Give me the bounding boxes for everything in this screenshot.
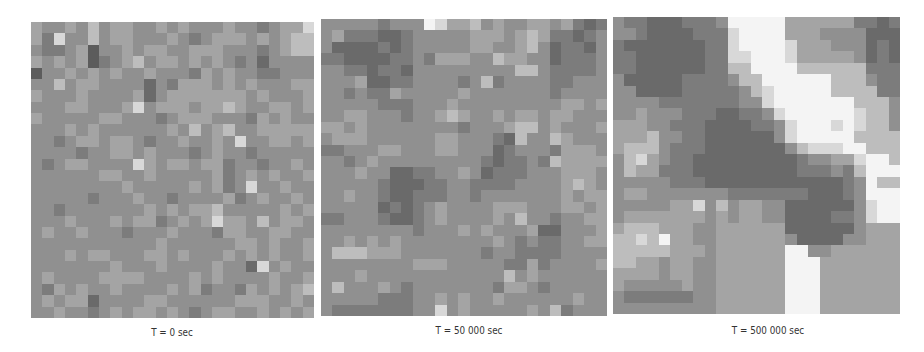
grid-cell <box>670 28 681 39</box>
grid-cell <box>99 238 110 249</box>
grid-cell <box>515 293 526 304</box>
grid-cell <box>122 68 133 79</box>
grid-cell <box>716 108 727 119</box>
grid-cell <box>291 238 302 249</box>
grid-cell <box>659 245 670 256</box>
grid-cell <box>65 68 76 79</box>
grid-cell <box>303 159 314 170</box>
grid-cell <box>584 305 595 316</box>
grid-cell <box>854 245 865 256</box>
grid-cell <box>843 143 854 154</box>
grid-cell <box>573 305 584 316</box>
grid-cell <box>705 177 716 188</box>
grid-cell <box>561 30 572 41</box>
grid-cell <box>178 250 189 261</box>
grid-cell <box>647 211 658 222</box>
grid-cell <box>167 68 178 79</box>
grid-cell <box>613 86 624 97</box>
grid-cell <box>820 51 831 62</box>
grid-cell <box>435 190 446 201</box>
grid-cell <box>613 97 624 108</box>
grid-cell <box>820 234 831 245</box>
grid-cell <box>54 295 65 306</box>
grid-cell <box>843 40 854 51</box>
grid-cell <box>201 193 212 204</box>
grid-cell <box>435 65 446 76</box>
grid-cell <box>332 53 343 64</box>
grid-cell <box>269 238 280 249</box>
grid-cell <box>235 124 246 135</box>
grid-cell <box>889 177 900 188</box>
grid-cell <box>246 45 257 56</box>
grid-cell <box>201 227 212 238</box>
grid-cell <box>178 181 189 192</box>
grid-cell <box>246 22 257 33</box>
grid-cell <box>866 120 877 131</box>
grid-cell <box>584 110 595 121</box>
grid-cell <box>877 200 888 211</box>
grid-cell <box>797 211 808 222</box>
grid-cell <box>390 99 401 110</box>
grid-cell <box>550 247 561 258</box>
grid-cell <box>378 236 389 247</box>
grid-cell <box>223 284 234 295</box>
grid-cell <box>201 170 212 181</box>
grid-cell <box>877 154 888 165</box>
grid-cell <box>65 227 76 238</box>
grid-cell <box>527 190 538 201</box>
grid-cell <box>550 145 561 156</box>
grid-cell <box>481 133 492 144</box>
grid-cell <box>367 65 378 76</box>
grid-cell <box>877 17 888 28</box>
grid-cell <box>739 97 750 108</box>
grid-cell <box>877 211 888 222</box>
grid-cell <box>257 45 268 56</box>
grid-cell <box>280 250 291 261</box>
grid-cell <box>291 284 302 295</box>
grid-cell <box>223 56 234 67</box>
grid-cell <box>401 202 412 213</box>
grid-cell <box>739 268 750 279</box>
grid-cell <box>332 19 343 30</box>
grid-cell <box>636 280 647 291</box>
grid-cell <box>774 280 785 291</box>
grid-cell <box>201 181 212 192</box>
grid-cell <box>774 177 785 188</box>
grid-cell <box>31 159 42 170</box>
grid-cell <box>647 280 658 291</box>
grid-cell <box>843 223 854 234</box>
grid-cell <box>693 234 704 245</box>
grid-cell <box>424 99 435 110</box>
grid-cell <box>584 236 595 247</box>
grid-cell <box>246 124 257 135</box>
grid-cell <box>435 156 446 167</box>
grid-cell <box>223 22 234 33</box>
grid-cell <box>550 99 561 110</box>
grid-cell <box>212 124 223 135</box>
grid-cell <box>716 200 727 211</box>
grid-cell <box>693 268 704 279</box>
grid-cell <box>866 245 877 256</box>
grid-cell <box>458 42 469 53</box>
grid-cell <box>133 147 144 158</box>
grid-cell <box>550 225 561 236</box>
grid-cell <box>291 250 302 261</box>
grid-cell <box>538 99 549 110</box>
grid-cell <box>561 225 572 236</box>
grid-cell <box>110 102 121 113</box>
grid-cell <box>889 257 900 268</box>
grid-cell <box>223 238 234 249</box>
grid-cell <box>624 63 635 74</box>
grid-cell <box>843 268 854 279</box>
grid-cell <box>201 295 212 306</box>
grid-cell <box>76 79 87 90</box>
grid-cell <box>693 257 704 268</box>
grid-cell <box>538 305 549 316</box>
grid-cell <box>413 65 424 76</box>
grid-cell <box>481 110 492 121</box>
grid-cell <box>550 30 561 41</box>
grid-cell <box>201 216 212 227</box>
grid-cell <box>527 133 538 144</box>
grid-cell <box>291 227 302 238</box>
grid-cell <box>573 145 584 156</box>
